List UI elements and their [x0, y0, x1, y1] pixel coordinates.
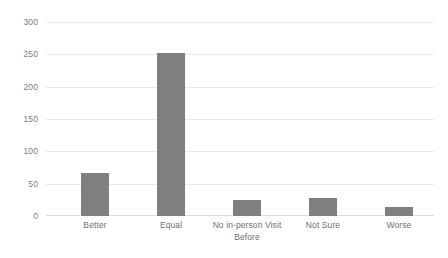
x-label-line2: Before — [205, 232, 289, 244]
x-label-line1: Equal — [160, 220, 182, 230]
x-label-line1: No in-person Visit — [213, 220, 282, 230]
bar-not-sure[interactable] — [309, 198, 337, 216]
x-label-equal: Equal — [132, 220, 210, 232]
x-axis-labels: Better Equal No in-person Visit Before N… — [46, 220, 434, 258]
y-tick-label: 150 — [0, 114, 38, 124]
x-label-line1: Better — [83, 220, 106, 230]
bar-worse[interactable] — [385, 207, 413, 216]
bar-slot-better — [68, 22, 122, 216]
bar-series — [46, 22, 434, 216]
x-label-worse: Worse — [360, 220, 438, 232]
y-tick-label: 300 — [0, 17, 38, 27]
bar-chart: 300 250 200 150 100 50 0 — [0, 0, 448, 258]
y-tick-label: 50 — [0, 179, 38, 189]
x-label-line1: Worse — [387, 220, 412, 230]
bar-no-in-person-visit-before[interactable] — [233, 200, 261, 216]
bar-slot-no-in-person-visit-before — [220, 22, 274, 216]
bar-better[interactable] — [81, 173, 109, 216]
x-label-not-sure: Not Sure — [284, 220, 362, 232]
x-label-better: Better — [56, 220, 134, 232]
y-tick-label: 250 — [0, 49, 38, 59]
x-label-line1: Not Sure — [306, 220, 340, 230]
bar-slot-worse — [372, 22, 426, 216]
y-tick-label: 200 — [0, 82, 38, 92]
y-axis-labels: 300 250 200 150 100 50 0 — [0, 0, 40, 258]
bar-slot-not-sure — [296, 22, 350, 216]
bar-slot-equal — [144, 22, 198, 216]
bar-equal[interactable] — [157, 53, 185, 216]
y-tick-label: 0 — [0, 211, 38, 221]
y-tick-label: 100 — [0, 146, 38, 156]
x-label-no-in-person-visit-before: No in-person Visit Before — [205, 220, 289, 243]
